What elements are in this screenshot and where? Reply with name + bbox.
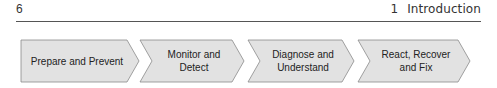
step-label-monitor: Monitor and Detect: [150, 40, 238, 82]
step-label-react: React, Recover and Fix: [368, 40, 464, 82]
step-label-diagnose: Diagnose and Understand: [258, 40, 348, 82]
step-label-prepare: Prepare and Prevent: [21, 40, 133, 82]
